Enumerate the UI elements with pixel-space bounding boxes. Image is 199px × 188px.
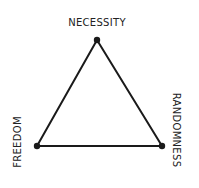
- label-freedom: FREEDOM: [12, 116, 23, 168]
- triangle-diagram: NECESSITY FREEDOM RANDOMNESS: [0, 0, 199, 188]
- vertex-randomness-dot: [159, 143, 165, 149]
- vertex-necessity-dot: [94, 37, 100, 43]
- triangle-shape: [37, 40, 162, 146]
- label-necessity: NECESSITY: [68, 17, 126, 28]
- vertex-freedom-dot: [34, 143, 40, 149]
- label-randomness: RANDOMNESS: [171, 93, 182, 168]
